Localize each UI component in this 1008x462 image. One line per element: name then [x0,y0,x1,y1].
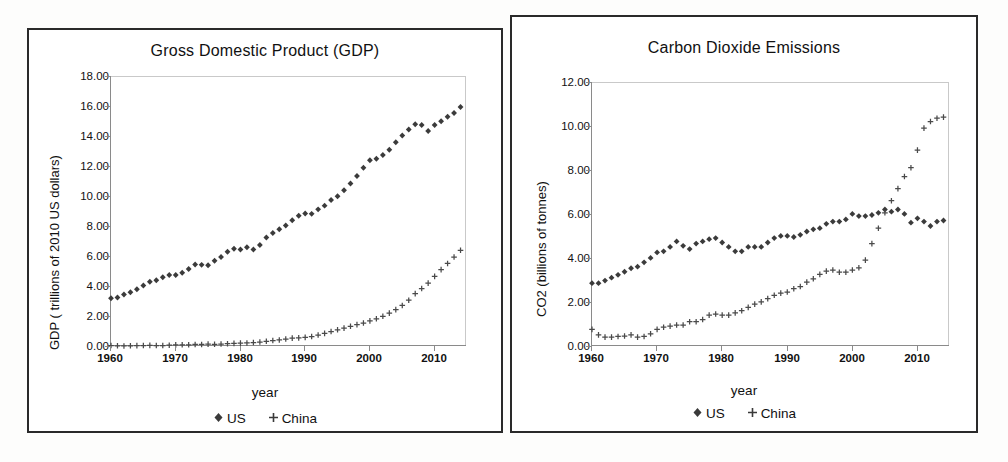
data-point-marker [667,323,673,329]
data-point-marker [257,339,263,345]
co2-xtick-1: 1970 [643,352,669,364]
data-point-marker [641,334,647,340]
data-point-marker [335,193,341,199]
data-point-marker [667,244,673,250]
series-us [589,207,946,287]
data-point-marker [849,211,855,217]
data-point-marker [902,174,908,180]
data-point-marker [661,248,667,254]
data-point-marker [121,292,127,298]
data-point-marker [128,289,134,295]
data-point-marker [296,335,302,341]
data-point-marker [928,119,934,125]
gdp-series-layer [111,77,467,347]
co2-xtick-0: 1960 [578,352,604,364]
data-point-marker [713,311,719,317]
data-point-marker [387,310,393,316]
data-point-marker [373,156,379,162]
data-point-marker [602,334,608,340]
data-point-marker [648,331,654,337]
series-china [108,247,463,348]
data-point-marker [732,248,738,254]
data-point-marker [166,342,172,348]
co2-legend-entry-china[interactable]: China [747,405,796,421]
data-point-marker [225,249,231,255]
co2-chart: Carbon Dioxide Emissions CO2 (billions o… [512,17,976,431]
data-point-marker [412,291,418,297]
data-point-marker [622,333,628,339]
data-point-marker [928,223,934,229]
data-point-marker [739,248,745,254]
data-point-marker [322,203,328,209]
data-point-marker [348,181,354,187]
gdp-legend-entry-us[interactable]: US [213,410,246,426]
data-point-marker [231,246,237,252]
data-point-marker [186,266,192,272]
data-point-marker [192,342,198,348]
data-point-marker [270,338,276,344]
co2-x-axis-label: year [512,383,976,398]
data-point-marker [876,210,882,216]
data-point-marker [432,122,438,128]
data-point-marker [348,324,354,330]
data-point-marker [179,270,185,276]
data-point-marker [399,303,405,309]
data-point-marker [941,218,947,224]
gdp-xtickmark-4 [369,346,370,351]
data-point-marker [680,243,686,249]
gdp-ytick-3: 6.00 [59,250,109,262]
data-point-marker [791,286,797,292]
data-point-marker [934,115,940,121]
data-point-marker [726,244,732,250]
data-point-marker [622,269,628,275]
gdp-legend-label-us: US [227,411,246,426]
data-point-marker [270,230,276,236]
data-point-marker [302,211,308,217]
data-point-marker [745,305,751,311]
data-point-marker [341,325,347,331]
gdp-legend: US China [29,410,501,426]
data-point-marker [199,342,205,348]
data-point-marker [374,316,380,322]
co2-ytick-2: 4.00 [540,252,590,264]
data-point-marker [179,342,185,348]
data-point-marker [804,279,810,285]
data-point-marker [804,229,810,235]
data-point-marker [654,327,660,333]
data-point-marker [432,274,438,280]
data-point-marker [218,254,224,260]
data-point-marker [810,226,816,232]
gdp-xtickmark-2 [240,346,241,351]
co2-ytick-3: 6.00 [540,208,590,220]
data-point-marker [160,274,166,280]
data-point-marker [458,247,464,253]
data-point-marker [889,209,895,215]
data-point-marker [817,225,823,231]
data-point-marker [908,165,914,171]
data-point-marker [205,341,211,347]
data-point-marker [205,262,211,268]
data-point-marker [908,220,914,226]
diamond-marker-icon [692,406,703,421]
data-point-marker [687,319,693,325]
data-point-marker [173,272,179,278]
data-point-marker [752,244,758,250]
data-point-marker [354,173,360,179]
data-point-marker [661,324,667,330]
gdp-xtick-5: 2010 [421,352,447,364]
co2-legend-entry-us[interactable]: US [692,405,725,421]
data-point-marker [289,217,295,223]
gdp-legend-entry-china[interactable]: China [268,410,317,426]
gdp-xtickmark-3 [304,346,305,351]
data-point-marker [921,219,927,225]
data-point-marker [328,197,334,203]
data-point-marker [302,335,308,341]
data-point-marker [231,341,237,347]
data-point-marker [406,297,412,303]
plus-marker-icon [268,411,279,426]
gdp-xtick-0: 1960 [97,352,123,364]
data-point-marker [283,336,289,342]
data-point-marker [134,343,140,349]
co2-xtickmark-1 [656,346,657,351]
data-point-marker [425,128,431,134]
